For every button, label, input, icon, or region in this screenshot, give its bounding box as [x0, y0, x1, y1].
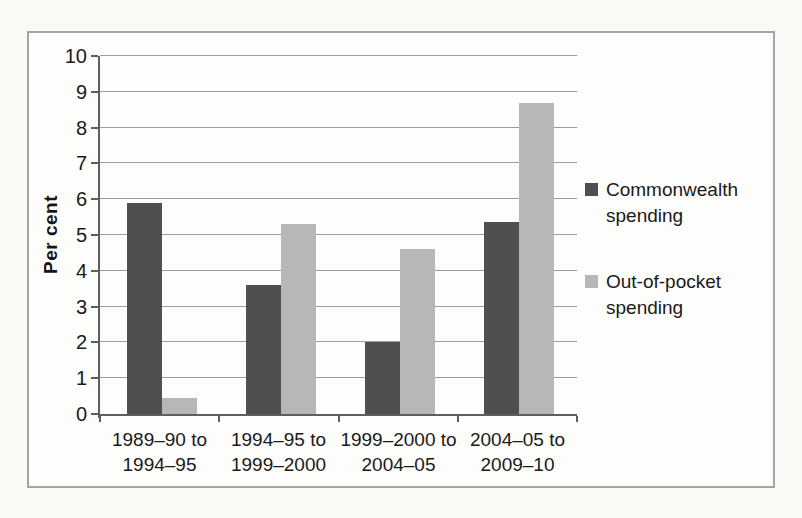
x-category-label: 2004–05 to2009–10	[442, 427, 593, 477]
y-tick-label: 10	[43, 44, 87, 68]
y-axis-tick	[91, 127, 98, 129]
bar	[519, 103, 554, 414]
y-axis-line	[98, 56, 100, 418]
page-background: { "figure": { "type_note": "scanned grou…	[0, 0, 802, 518]
gridline	[100, 198, 577, 199]
y-axis-tick	[91, 55, 98, 57]
gridline	[100, 55, 577, 56]
bar	[484, 222, 519, 414]
y-tick-label: 7	[43, 151, 87, 175]
bar	[162, 398, 197, 414]
y-tick-label: 6	[43, 187, 87, 211]
y-axis-tick	[91, 234, 98, 236]
y-tick-label: 9	[43, 80, 87, 104]
x-axis-tick	[457, 416, 459, 422]
x-axis-tick	[99, 416, 101, 422]
x-axis-tick	[338, 416, 340, 422]
legend-entry-out-of-pocket: Out-of-pocket spending	[585, 269, 775, 321]
y-axis-tick	[91, 306, 98, 308]
y-axis-tick	[91, 162, 98, 164]
y-tick-label: 4	[43, 259, 87, 283]
legend-label-commonwealth: Commonwealth spending	[606, 177, 775, 229]
y-axis-tick	[91, 377, 98, 379]
gridline	[100, 127, 577, 128]
y-axis-tick	[91, 91, 98, 93]
x-category-label-line: 2009–10	[442, 452, 593, 477]
plot-area: 0123456789101989–90 to1994–951994–95 to1…	[100, 56, 577, 414]
y-axis-tick	[91, 198, 98, 200]
out-of-pocket-spending-swatch-icon	[585, 275, 598, 288]
y-tick-label: 5	[43, 223, 87, 247]
gridline	[100, 91, 577, 92]
y-tick-label: 1	[43, 366, 87, 390]
y-axis-tick	[91, 341, 98, 343]
gridline	[100, 162, 577, 163]
bar	[400, 249, 435, 414]
commonwealth-spending-swatch-icon	[585, 183, 598, 196]
legend-label-out-of-pocket: Out-of-pocket spending	[606, 269, 775, 321]
bar	[127, 203, 162, 414]
x-axis-tick	[576, 416, 578, 422]
y-tick-label: 0	[43, 402, 87, 426]
x-category-label-line: 2004–05 to	[442, 427, 593, 452]
y-axis-tick	[91, 413, 98, 415]
bar	[281, 224, 316, 414]
x-axis-tick	[218, 416, 220, 422]
legend-entry-commonwealth: Commonwealth spending	[585, 177, 775, 229]
y-tick-label: 8	[43, 116, 87, 140]
y-axis-tick	[91, 270, 98, 272]
y-tick-label: 2	[43, 330, 87, 354]
chart-figure: Per cent 0123456789101989–90 to1994–9519…	[27, 31, 775, 488]
bar	[246, 285, 281, 414]
y-tick-label: 3	[43, 295, 87, 319]
bar	[365, 342, 400, 414]
